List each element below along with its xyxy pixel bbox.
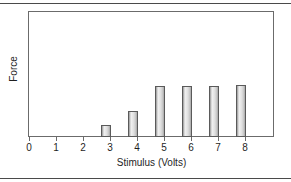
x-tick-label-7: 7: [207, 142, 229, 154]
x-tick-label-4: 4: [126, 142, 148, 154]
x-tick-label-3: 3: [99, 142, 121, 154]
bar-stimulus-8: [236, 85, 246, 137]
x-axis: 0 1 2 3 4 5 6 7 8: [29, 137, 274, 157]
x-tick-label-5: 5: [153, 142, 175, 154]
bar-stimulus-3: [101, 125, 111, 137]
x-tick-6: [191, 137, 192, 141]
bar-stimulus-5: [155, 86, 165, 137]
x-tick-1: [56, 137, 57, 141]
x-tick-label-6: 6: [180, 142, 202, 154]
x-tick-label-2: 2: [72, 142, 94, 154]
x-tick-4: [137, 137, 138, 141]
x-tick-7: [218, 137, 219, 141]
x-tick-label-0: 0: [18, 142, 40, 154]
x-tick-5: [164, 137, 165, 141]
x-tick-label-8: 8: [234, 142, 256, 154]
bar-stimulus-7: [209, 86, 219, 137]
y-axis-title: Force: [8, 39, 20, 99]
bar-stimulus-4: [128, 111, 138, 137]
bar-chart: 0 1 2 3 4 5 6 7 8 Stimulus (Volts) Force: [0, 0, 291, 182]
plot-area-inner: [29, 11, 274, 137]
x-tick-0: [29, 137, 30, 141]
x-tick-label-1: 1: [45, 142, 67, 154]
x-axis-title: Stimulus (Volts): [29, 156, 274, 169]
x-tick-8: [245, 137, 246, 141]
x-tick-2: [83, 137, 84, 141]
x-tick-3: [110, 137, 111, 141]
bar-stimulus-6: [182, 86, 192, 137]
